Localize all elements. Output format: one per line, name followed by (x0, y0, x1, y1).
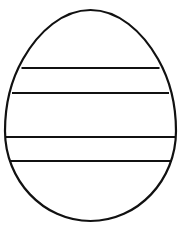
egg-illustration (0, 0, 188, 234)
image-canvas (0, 0, 188, 234)
